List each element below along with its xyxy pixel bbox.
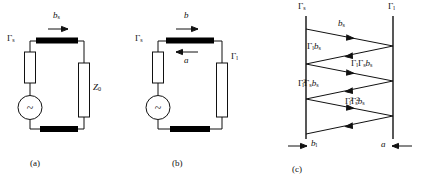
panel-b-circuit: ~ <box>130 0 280 183</box>
transmission-bar-top <box>166 38 214 44</box>
panel-c: Γs Γl bs Γlbs ΓlΓsbs Γ2lΓsbs Γ2lΓ2sbs bl… <box>280 0 424 183</box>
wave-arrow-a <box>176 49 198 54</box>
panel-a: ~ Γs Z0 bs (a) <box>0 0 140 183</box>
source-reflection-box <box>153 52 164 83</box>
panel-a-caption: (a) <box>30 158 40 168</box>
panel-c-caption: (c) <box>292 164 302 174</box>
panel-b-caption: (b) <box>172 158 183 168</box>
panel-a-load-impedance-label: Z0 <box>93 83 101 93</box>
figure-root: ~ Γs Z0 bs (a) <box>0 0 424 183</box>
panel-a-wave-label: bs <box>53 11 60 21</box>
panel-b-source-reflection-label: Γs <box>135 34 143 44</box>
source-impedance-box <box>25 52 36 83</box>
bounce-label-5: Γ2lΓ2sbs <box>345 96 365 106</box>
panel-c-bottom-arrows <box>288 143 412 148</box>
panel-c-left-port-label: Γs <box>298 2 306 12</box>
bounce-label-3: ΓlΓsbs <box>351 59 372 69</box>
load-reflection-box <box>217 63 228 117</box>
panel-a-source-reflection-label: Γs <box>7 34 15 44</box>
panel-b: ~ Γs Γl b a (b) <box>130 0 280 183</box>
bottom-left-arrow <box>288 143 307 148</box>
panel-c-bottom-right-label: a <box>381 140 386 149</box>
panel-b-reverse-wave-label: a <box>184 56 189 65</box>
load-impedance-box <box>79 63 90 117</box>
panel-c-bounce-diagram <box>280 0 424 183</box>
transmission-bar-top <box>36 38 78 44</box>
bounce-label-1: bs <box>338 19 345 29</box>
transmission-bar-bottom <box>40 126 78 132</box>
bounce-label-4: Γ2lΓsbs <box>298 78 319 88</box>
panel-b-forward-wave-label: b <box>184 11 189 20</box>
panel-b-wires <box>158 41 222 129</box>
bounce-ray-3 <box>306 64 393 81</box>
wave-arrow-b <box>176 26 198 31</box>
panel-c-port-lines <box>306 16 393 139</box>
panel-b-load-reflection-label: Γl <box>231 52 238 62</box>
wave-arrow-bs <box>48 26 68 31</box>
panel-c-right-port-label: Γl <box>388 2 395 12</box>
transmission-bar-bottom <box>170 126 210 132</box>
panel-c-bottom-left-label: bl <box>311 139 317 149</box>
bounce-ray-6 <box>306 116 393 134</box>
ac-source-symbol: ~ <box>27 101 34 115</box>
bottom-right-arrow <box>392 143 412 148</box>
bounce-label-2: Γlbs <box>307 42 321 52</box>
panel-a-circuit: ~ <box>0 0 140 183</box>
ac-source-symbol: ~ <box>155 101 162 115</box>
